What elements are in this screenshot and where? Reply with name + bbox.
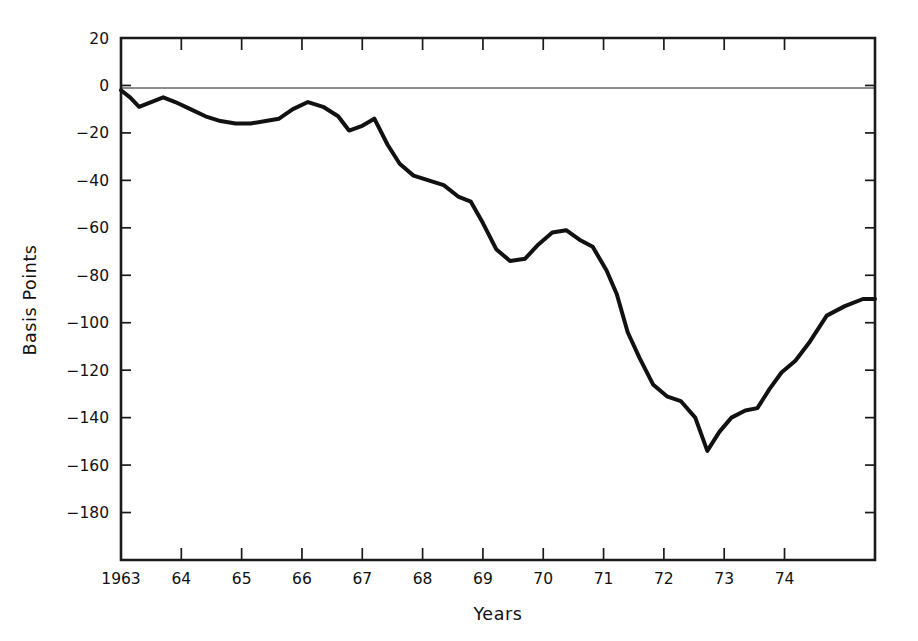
y-tick-label: −180: [66, 504, 109, 522]
x-tick-label: 71: [594, 570, 614, 588]
y-tick-label: −60: [76, 219, 109, 237]
chart-background: [0, 0, 918, 641]
y-tick-label: 20: [89, 30, 109, 48]
chart-figure: 200−20−40−60−80−100−120−140−160−180 1963…: [0, 0, 918, 641]
x-tick-label: 66: [292, 570, 312, 588]
x-axis-title: Years: [472, 604, 522, 624]
x-tick-label: 1963: [101, 570, 140, 588]
x-tick-label: 65: [232, 570, 252, 588]
x-tick-label: 74: [775, 570, 795, 588]
y-axis-title: Basis Points: [20, 244, 40, 355]
x-tick-label: 72: [654, 570, 674, 588]
x-tick-label: 67: [352, 570, 372, 588]
y-tick-label: −80: [76, 267, 109, 285]
y-tick-label: −100: [66, 314, 109, 332]
x-tick-label: 68: [413, 570, 433, 588]
y-tick-label: −140: [66, 409, 109, 427]
y-tick-label: −20: [76, 124, 109, 142]
y-tick-label: −160: [66, 457, 109, 475]
x-tick-label: 70: [533, 570, 553, 588]
y-tick-label: −120: [66, 362, 109, 380]
y-tick-label: 0: [99, 77, 109, 95]
x-tick-label: 64: [171, 570, 191, 588]
x-tick-label: 73: [714, 570, 734, 588]
x-tick-label: 69: [473, 570, 493, 588]
basis-points-line-chart: 200−20−40−60−80−100−120−140−160−180 1963…: [0, 0, 918, 641]
y-tick-label: −40: [76, 172, 109, 190]
